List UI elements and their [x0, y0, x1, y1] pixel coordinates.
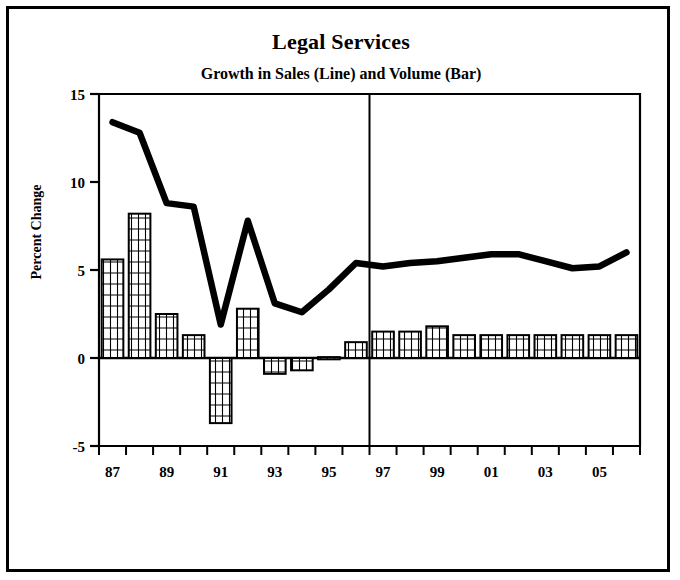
bar-06 — [616, 335, 638, 358]
x-tick-label-03: 03 — [538, 464, 553, 480]
bar-87 — [102, 259, 124, 358]
plot-area: -5051015 87899193959799010305 — [9, 9, 673, 575]
y-tick-label--5: -5 — [73, 439, 86, 455]
bar-90 — [183, 335, 205, 358]
bar-95 — [318, 357, 340, 359]
bar-97 — [372, 332, 394, 358]
x-tick-label-01: 01 — [484, 464, 499, 480]
x-tick-label-87: 87 — [105, 464, 121, 480]
bar-94 — [291, 358, 313, 370]
bar-03 — [535, 335, 557, 358]
x-tick-label-97: 97 — [376, 464, 392, 480]
axes-group — [90, 94, 640, 455]
bar-89 — [156, 314, 178, 358]
bar-02 — [507, 335, 529, 358]
x-tick-label-99: 99 — [430, 464, 445, 480]
bar-98 — [399, 332, 421, 358]
bar-05 — [589, 335, 611, 358]
bar-04 — [562, 335, 584, 358]
x-tick-labels: 87899193959799010305 — [105, 464, 607, 480]
bar-92 — [237, 309, 259, 358]
x-tick-label-93: 93 — [267, 464, 282, 480]
chart-svg: -5051015 87899193959799010305 — [9, 9, 673, 575]
bar-93 — [264, 358, 286, 374]
x-tick-label-95: 95 — [321, 464, 336, 480]
bar-88 — [129, 214, 151, 358]
x-tick-label-89: 89 — [159, 464, 174, 480]
bar-96 — [345, 342, 367, 358]
x-tick-label-05: 05 — [592, 464, 607, 480]
bar-01 — [480, 335, 502, 358]
bar-99 — [426, 326, 448, 358]
x-tick-label-91: 91 — [213, 464, 228, 480]
chart-frame: Legal Services Growth in Sales (Line) an… — [6, 6, 670, 572]
y-tick-labels: -5051015 — [70, 87, 85, 455]
y-tick-label-10: 10 — [70, 175, 85, 191]
bar-00 — [453, 335, 475, 358]
y-tick-label-0: 0 — [78, 351, 86, 367]
bar-91 — [210, 358, 232, 423]
y-tick-label-5: 5 — [78, 263, 86, 279]
y-tick-label-15: 15 — [70, 87, 85, 103]
